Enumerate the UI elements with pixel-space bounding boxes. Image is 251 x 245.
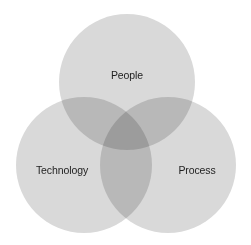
process-label: Process	[178, 164, 215, 176]
technology-label: Technology	[36, 164, 88, 176]
venn-diagram	[0, 0, 251, 245]
people-label: People	[111, 69, 143, 81]
